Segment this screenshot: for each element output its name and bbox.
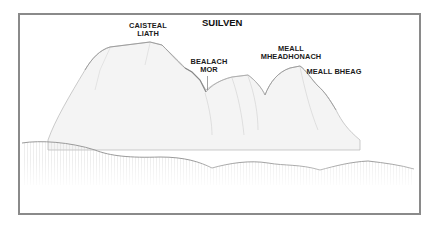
label-meall-bheag: MEALL BHEAG [306, 68, 362, 76]
leader-line [0, 0, 434, 231]
label-line: MEALL BHEAG [306, 68, 362, 76]
label-line: MHEADHONACH [256, 53, 326, 61]
label-meall-mheadhonach: MEALL MHEADHONACH [256, 45, 326, 61]
